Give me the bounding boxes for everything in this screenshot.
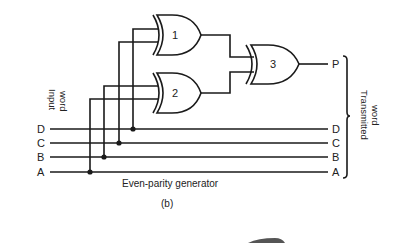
svg-text:word: word xyxy=(370,104,381,126)
transmitted-word-label: Transmitted word xyxy=(359,90,381,140)
junction-d xyxy=(130,126,135,131)
input-label-c: C xyxy=(37,137,45,149)
parity-generator-diagram: 1 2 3 D C B A P D C B A Input word Trans… xyxy=(0,0,394,243)
subfigure-label: (b) xyxy=(161,198,173,209)
tap-b xyxy=(104,86,158,157)
output-label-c: C xyxy=(332,137,340,149)
junction-a xyxy=(87,169,92,174)
cropped-next-figure xyxy=(248,238,285,243)
input-word-label: Input word xyxy=(47,89,69,112)
input-label-b: B xyxy=(37,151,44,163)
diagram-title: Even-parity generator xyxy=(122,178,219,189)
tap-a xyxy=(90,99,158,172)
output-label-b: B xyxy=(332,151,339,163)
output-label-p: P xyxy=(332,58,339,70)
tap-d xyxy=(133,29,158,129)
svg-text:word: word xyxy=(58,90,69,112)
transmitted-word-brace xyxy=(343,56,350,178)
svg-text:Transmitted: Transmitted xyxy=(359,90,370,140)
gate-2-label: 2 xyxy=(172,87,178,99)
tap-c xyxy=(119,42,158,143)
svg-text:Input: Input xyxy=(47,89,58,110)
junction-b xyxy=(101,154,106,159)
input-label-d: D xyxy=(37,123,45,135)
junction-c xyxy=(116,140,121,145)
gate-1-label: 1 xyxy=(172,29,178,41)
output-label-a: A xyxy=(332,166,340,178)
input-label-a: A xyxy=(37,166,45,178)
output-label-d: D xyxy=(332,123,340,135)
gate-3-label: 3 xyxy=(270,58,276,70)
